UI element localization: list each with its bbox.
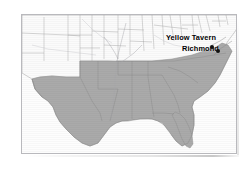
map-plate: Yellow Tavern Richmond (21, 14, 237, 154)
plate-drop-shadow-bottom (24, 155, 239, 157)
map-marker-richmond (216, 49, 220, 53)
map-figure: Yellow Tavern Richmond (0, 0, 252, 172)
plate-drop-shadow-right (237, 17, 239, 155)
map-label-yellow-tavern: Yellow Tavern (166, 34, 216, 42)
map-marker-yellow-tavern (210, 45, 214, 49)
